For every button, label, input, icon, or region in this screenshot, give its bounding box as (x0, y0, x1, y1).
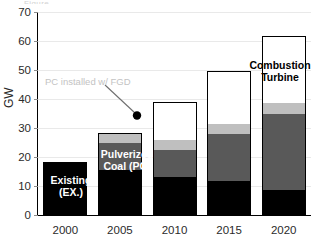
bar-2005 (98, 133, 142, 215)
bar-segment-2010-pc (153, 150, 197, 177)
y-tick-label: 20 (18, 151, 31, 163)
y-tick-label: 30 (18, 122, 31, 134)
bar-segment-2015-fgd (207, 124, 251, 134)
y-tick-label: 40 (18, 93, 31, 105)
pulverized-coal-label: Pulverized Coal (PC) (95, 148, 159, 173)
y-tick-mark (34, 12, 38, 13)
bar-segment-2015-ex (207, 181, 251, 216)
combustion-turbine-label: Combustion Turbine (247, 59, 313, 84)
y-tick-mark (34, 70, 38, 71)
bar-segment-2010-ct (153, 102, 197, 140)
y-tick-mark (34, 157, 38, 158)
x-tick-label: 2005 (107, 224, 133, 236)
x-tick-label: 2020 (271, 224, 297, 236)
y-tick-label: 50 (18, 64, 31, 76)
bar-segment-2020-ex (262, 190, 306, 215)
bar-2015 (207, 71, 251, 215)
bar-segment-2015-pc (207, 134, 251, 180)
y-axis-title: GW (2, 87, 16, 108)
y-tick-label: 10 (18, 180, 31, 192)
y-tick-mark (34, 215, 38, 216)
x-tick-label: 2010 (162, 224, 188, 236)
stacked-bar-chart: Figure GW 010203040506070200020052010201… (0, 0, 315, 245)
y-tick-mark (34, 41, 38, 42)
gridline (38, 12, 311, 13)
existing-label: Existing (EX.) (40, 174, 102, 199)
bar-segment-2005-fgd (98, 133, 142, 143)
x-tick-label: 2015 (216, 224, 242, 236)
bar-segment-2020-fgd (262, 103, 306, 114)
y-tick-label: 60 (18, 35, 31, 47)
top-crop-artifact: Figure (24, 0, 104, 4)
y-tick-mark (34, 186, 38, 187)
bar-segment-2020-pc (262, 114, 306, 190)
bar-segment-2010-fgd (153, 140, 197, 150)
y-tick-label: 70 (18, 6, 31, 18)
y-tick-mark (34, 99, 38, 100)
fgd-callout-label: PC installed w/ FGD (45, 76, 131, 87)
bar-segment-2015-ct (207, 71, 251, 124)
y-tick-label: 0 (25, 209, 31, 221)
bar-segment-2010-ex (153, 177, 197, 215)
x-tick-label: 2000 (53, 224, 79, 236)
y-tick-mark (34, 128, 38, 129)
bar-2010 (153, 102, 197, 215)
bar-segment-2005-ex (98, 170, 142, 215)
